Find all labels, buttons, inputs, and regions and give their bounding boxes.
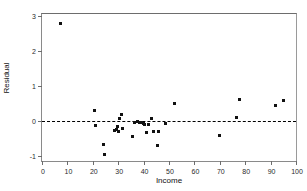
data-point (143, 123, 146, 126)
data-point (103, 153, 106, 156)
x-axis-tick-label: 50 (166, 167, 174, 176)
y-axis-tick-label: 3 (32, 12, 36, 21)
y-axis-tick: -1 (38, 156, 42, 157)
y-axis-tick: 3 (38, 16, 42, 17)
data-point (152, 130, 155, 133)
data-point (94, 124, 97, 127)
x-axis-tick-label: 80 (242, 167, 250, 176)
data-point (120, 113, 123, 116)
data-point (274, 104, 277, 107)
plot-inner (42, 14, 296, 161)
x-axis-tick-label: 60 (191, 167, 199, 176)
x-axis-tick: 30 (118, 161, 119, 165)
residual-scatter-figure: -101230102030405060708090100 Income Resi… (0, 0, 307, 191)
x-axis-tick-label: 90 (268, 167, 276, 176)
data-point (235, 116, 238, 119)
data-point (150, 117, 153, 120)
x-axis-tick: 90 (271, 161, 272, 165)
data-point (157, 130, 160, 133)
data-point (131, 135, 134, 138)
x-axis-tick-label: 20 (90, 167, 98, 176)
x-axis-tick: 60 (194, 161, 195, 165)
x-axis-tick-label: 100 (291, 167, 303, 176)
x-axis-tick-label: 40 (141, 167, 149, 176)
data-point (218, 134, 221, 137)
data-point (118, 117, 121, 120)
x-axis-tick-label: 10 (64, 167, 72, 176)
data-point (147, 123, 150, 126)
y-axis-tick: 2 (38, 51, 42, 52)
y-axis-tick-label: 0 (32, 117, 36, 126)
data-point (59, 22, 62, 25)
y-axis-tick-label: -1 (30, 152, 36, 161)
x-axis-tick-label: 0 (41, 167, 45, 176)
data-point (117, 130, 120, 133)
data-point (173, 102, 176, 105)
data-point (164, 122, 167, 125)
data-point (102, 143, 105, 146)
plot-area: -101230102030405060708090100 (41, 13, 297, 162)
x-axis-tick: 80 (245, 161, 246, 165)
zero-reference-line (42, 121, 296, 122)
data-point (156, 144, 159, 147)
x-axis-tick-label: 70 (217, 167, 225, 176)
y-axis-tick-label: 1 (32, 82, 36, 91)
x-axis-tick: 40 (144, 161, 145, 165)
x-axis-tick: 50 (169, 161, 170, 165)
y-axis-tick: 0 (38, 121, 42, 122)
data-point (145, 131, 148, 134)
x-axis-title: Income (41, 176, 297, 186)
y-axis-tick: 1 (38, 86, 42, 87)
data-point (121, 127, 124, 130)
y-axis-title: Residual (2, 48, 12, 108)
x-axis-tick-label: 30 (115, 167, 123, 176)
data-point (238, 98, 241, 101)
x-axis-tick: 10 (67, 161, 68, 165)
data-point (116, 125, 119, 128)
data-point (282, 99, 285, 102)
data-point (93, 109, 96, 112)
chart-title (0, 0, 307, 4)
x-axis-tick: 0 (42, 161, 43, 165)
y-axis-tick-label: 2 (32, 47, 36, 56)
x-axis-tick: 70 (220, 161, 221, 165)
x-axis-tick: 100 (296, 161, 297, 165)
x-axis-tick: 20 (93, 161, 94, 165)
